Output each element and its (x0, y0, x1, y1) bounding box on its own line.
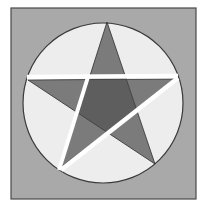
diagram-canvas (0, 0, 209, 206)
horizontal-cut (27, 76, 178, 77)
pentagram-puzzle-diagram (0, 0, 209, 206)
